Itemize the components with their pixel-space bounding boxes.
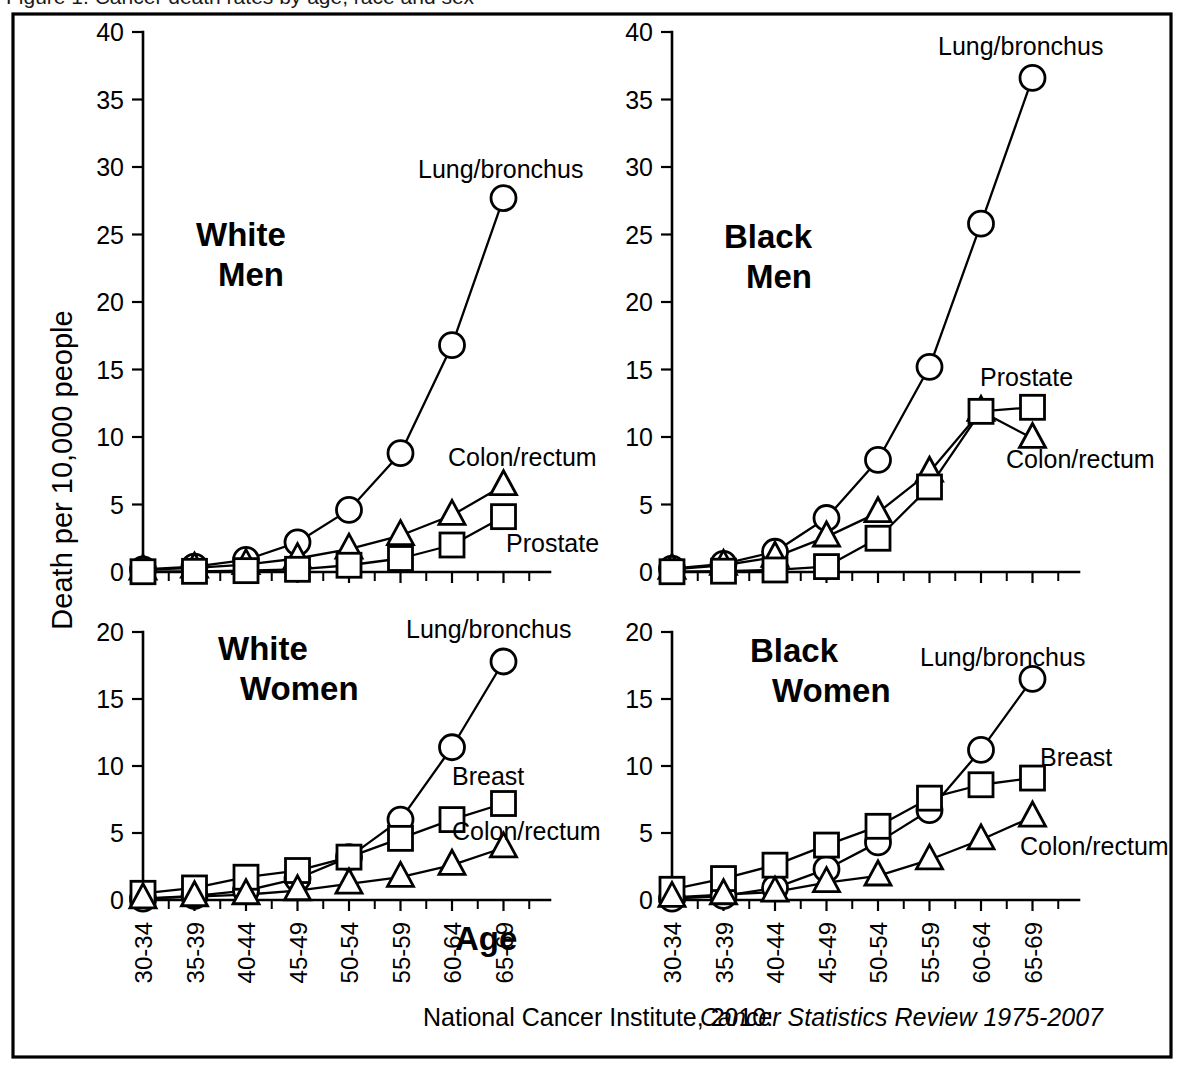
marker-square bbox=[492, 505, 516, 529]
x-category-label: 65-69 bbox=[1020, 922, 1047, 983]
marker-circle bbox=[969, 737, 994, 762]
marker-square bbox=[763, 558, 787, 582]
marker-square bbox=[492, 792, 516, 816]
y-tick-label: 30 bbox=[625, 153, 653, 181]
x-category-label: 45-49 bbox=[814, 922, 841, 983]
y-tick-label: 10 bbox=[96, 752, 124, 780]
y-tick-label: 35 bbox=[625, 86, 653, 114]
panel-title-line1: White bbox=[218, 630, 308, 667]
marker-square bbox=[337, 845, 361, 869]
y-tick-label: 20 bbox=[96, 288, 124, 316]
marker-circle bbox=[969, 211, 994, 236]
panel-black-men: 0510152025303540BlackMenLung/bronchusPro… bbox=[625, 18, 1154, 586]
panel-black-women: 05101520BlackWomenLung/bronchusBreastCol… bbox=[625, 618, 1168, 983]
breast-label: Breast bbox=[1040, 743, 1112, 771]
marker-square bbox=[131, 560, 155, 584]
x-category-label: 55-59 bbox=[917, 922, 944, 983]
colon-rectum-label: Colon/rectum bbox=[452, 817, 601, 845]
marker-square bbox=[440, 533, 464, 557]
marker-triangle bbox=[865, 498, 891, 522]
marker-circle bbox=[917, 354, 942, 379]
y-tick-label: 0 bbox=[110, 886, 124, 914]
marker-circle bbox=[388, 441, 413, 466]
source-italic: Cancer Statistics Review 1975-2007 bbox=[700, 1003, 1104, 1031]
y-tick-label: 10 bbox=[96, 423, 124, 451]
panel-title-line2: Women bbox=[772, 672, 891, 709]
y-tick-label: 15 bbox=[625, 685, 653, 713]
panel-title-line1: Black bbox=[750, 632, 839, 669]
y-tick-label: 5 bbox=[110, 819, 124, 847]
colon-rectum-label: Colon/rectum bbox=[448, 443, 597, 471]
panel-title-line2: Men bbox=[746, 258, 812, 295]
series-line-lung-bronchus bbox=[672, 78, 1033, 569]
panel-title-line2: Men bbox=[218, 256, 284, 293]
marker-square bbox=[389, 826, 413, 850]
marker-square bbox=[815, 833, 839, 857]
marker-square bbox=[337, 553, 361, 577]
prostate-label: Prostate bbox=[980, 363, 1073, 391]
chart-layer: 0510152025303540WhiteMenLung/bronchusCol… bbox=[46, 18, 1169, 1031]
colon-rectum-label: Colon/rectum bbox=[1020, 832, 1169, 860]
y-axis-title: Death per 10,000 people bbox=[46, 310, 78, 629]
marker-square bbox=[234, 559, 258, 583]
top-caption-cropped: Figure 1. Cancer death rates by age, rac… bbox=[0, 0, 1182, 11]
top-caption-text: Figure 1. Cancer death rates by age, rac… bbox=[6, 0, 474, 8]
x-category-label: 50-54 bbox=[865, 922, 892, 983]
y-tick-label: 20 bbox=[96, 618, 124, 646]
marker-triangle bbox=[491, 471, 517, 495]
x-category-label: 30-34 bbox=[130, 922, 157, 983]
y-tick-label: 15 bbox=[96, 356, 124, 384]
panel-white-women: 05101520WhiteWomenLung/bronchusBreastCol… bbox=[96, 615, 600, 983]
marker-square bbox=[969, 773, 993, 797]
x-category-label: 40-44 bbox=[762, 922, 789, 983]
x-category-label: 45-49 bbox=[285, 922, 312, 983]
y-tick-label: 5 bbox=[639, 491, 653, 519]
marker-square bbox=[183, 559, 207, 583]
marker-circle bbox=[491, 649, 516, 674]
marker-square bbox=[1021, 395, 1045, 419]
marker-triangle bbox=[336, 869, 362, 893]
panel-title-line2: Women bbox=[240, 670, 359, 707]
y-tick-label: 0 bbox=[639, 558, 653, 586]
y-tick-label: 25 bbox=[625, 221, 653, 249]
marker-circle bbox=[1020, 65, 1045, 90]
marker-square bbox=[866, 526, 890, 550]
marker-square bbox=[866, 814, 890, 838]
marker-square bbox=[763, 853, 787, 877]
y-tick-label: 0 bbox=[110, 558, 124, 586]
breast-label: Breast bbox=[452, 762, 524, 790]
marker-triangle bbox=[1020, 423, 1046, 447]
y-tick-label: 40 bbox=[96, 18, 124, 46]
marker-circle bbox=[866, 447, 891, 472]
marker-square bbox=[712, 559, 736, 583]
y-tick-label: 20 bbox=[625, 618, 653, 646]
marker-square bbox=[969, 399, 993, 423]
panel-title-line1: White bbox=[196, 216, 286, 253]
x-category-label: 60-64 bbox=[968, 922, 995, 983]
panel-white-men: 0510152025303540WhiteMenLung/bronchusCol… bbox=[96, 18, 599, 586]
marker-circle bbox=[491, 186, 516, 211]
y-tick-label: 5 bbox=[639, 819, 653, 847]
marker-circle bbox=[337, 497, 362, 522]
y-tick-label: 15 bbox=[625, 356, 653, 384]
lung-bronchus-label: Lung/bronchus bbox=[920, 643, 1085, 671]
y-tick-label: 15 bbox=[96, 685, 124, 713]
y-tick-label: 35 bbox=[96, 86, 124, 114]
marker-square bbox=[918, 475, 942, 499]
marker-square bbox=[286, 557, 310, 581]
panel-title-line1: Black bbox=[724, 218, 813, 255]
marker-circle bbox=[440, 735, 465, 760]
figure-root: Figure 1. Cancer death rates by age, rac… bbox=[0, 0, 1182, 1086]
marker-square bbox=[660, 560, 684, 584]
marker-triangle bbox=[439, 500, 465, 524]
marker-triangle bbox=[1020, 802, 1046, 826]
lung-bronchus-label: Lung/bronchus bbox=[418, 155, 583, 183]
y-tick-label: 20 bbox=[625, 288, 653, 316]
y-tick-label: 10 bbox=[625, 752, 653, 780]
colon-rectum-label: Colon/rectum bbox=[1006, 445, 1155, 473]
x-category-label: 35-39 bbox=[711, 922, 738, 983]
prostate-label: Prostate bbox=[506, 529, 599, 557]
lung-bronchus-label: Lung/bronchus bbox=[938, 32, 1103, 60]
x-category-label: 30-34 bbox=[659, 922, 686, 983]
y-tick-label: 30 bbox=[96, 153, 124, 181]
